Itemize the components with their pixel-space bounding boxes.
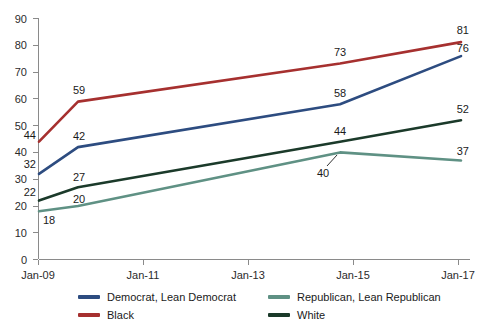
legend-swatch-white-icon (268, 313, 290, 317)
point-label-white-2009: 22 (24, 186, 36, 198)
x-tick-label-jan15: Jan-15 (336, 269, 370, 281)
legend-label-republican: Republican, Lean Republican (297, 292, 441, 303)
point-label-black-2018: 81 (457, 24, 469, 36)
legend-item-white[interactable]: White (268, 310, 325, 321)
x-tick-label-jan17: Jan-17 (441, 269, 475, 281)
y-tick-label-40: 40 (15, 146, 27, 158)
y-tick-label-60: 60 (15, 93, 27, 105)
point-label-white-2018: 52 (457, 103, 469, 115)
point-label-democrat-2018: 76 (457, 42, 469, 54)
x-tick-label-jan09: Jan-09 (21, 269, 55, 281)
legend-row-2: Black White (0, 306, 478, 324)
point-label-democrat-2009: 32 (24, 158, 36, 170)
y-tick-label-90: 90 (15, 13, 27, 25)
legend-item-republican[interactable]: Republican, Lean Republican (268, 292, 441, 303)
point-label-republican-2018: 37 (457, 145, 469, 157)
legend-row-1: Democrat, Lean Democrat Republican, Lean… (0, 288, 478, 306)
point-label-democrat-2010: 42 (73, 130, 85, 142)
line-chart: 90 80 70 60 50 40 30 20 10 0 Jan-09 Jan-… (0, 0, 478, 324)
point-label-republican-2009: 18 (43, 214, 55, 226)
y-tick-label-20: 20 (15, 200, 27, 212)
legend-item-democrat[interactable]: Democrat, Lean Democrat (78, 292, 268, 303)
point-label-black-2015: 73 (334, 46, 346, 58)
point-label-republican-2015: 40 (317, 167, 329, 179)
x-tick-marks (39, 260, 459, 266)
y-tick-label-70: 70 (15, 66, 27, 78)
legend-swatch-republican-icon (268, 295, 290, 299)
y-tick-label-10: 10 (15, 227, 27, 239)
y-tick-label-0: 0 (21, 254, 27, 266)
point-label-black-2010: 59 (73, 84, 85, 96)
legend-swatch-black-icon (78, 313, 100, 317)
series-line-black (39, 42, 461, 142)
legend-label-black: Black (107, 310, 134, 321)
legend-label-democrat: Democrat, Lean Democrat (107, 292, 236, 303)
point-label-black-2009: 44 (24, 129, 36, 141)
legend-swatch-democrat-icon (78, 295, 100, 299)
y-tick-label-30: 30 (15, 173, 27, 185)
point-label-white-2015: 44 (334, 125, 346, 137)
point-label-republican-2010: 20 (73, 193, 85, 205)
plot-area: 90 80 70 60 50 40 30 20 10 0 Jan-09 Jan-… (0, 0, 478, 290)
series-line-white (39, 120, 461, 200)
x-tick-label-jan13: Jan-13 (231, 269, 265, 281)
legend-label-white: White (297, 310, 325, 321)
y-tick-label-80: 80 (15, 39, 27, 51)
chart-legend: Democrat, Lean Democrat Republican, Lean… (0, 288, 478, 324)
x-tick-label-jan11: Jan-11 (127, 269, 160, 281)
legend-item-black[interactable]: Black (78, 310, 268, 321)
leader-line-republican-40 (327, 155, 337, 166)
point-label-white-2010: 27 (73, 171, 85, 183)
point-label-democrat-2015: 58 (334, 87, 346, 99)
